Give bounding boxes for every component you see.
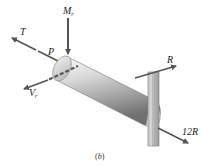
figure-caption: (b) (95, 153, 104, 161)
label-R: R (167, 55, 173, 65)
label-Mr: Mr (63, 6, 74, 17)
lever-plate (148, 72, 159, 146)
axial-force-arrow (12, 38, 62, 63)
shaft-cylinder (49, 53, 161, 128)
label-Vr: Vr (29, 88, 37, 99)
label-T: T (20, 27, 26, 37)
label-12R: 12R (182, 127, 198, 137)
free-body-diagram (0, 0, 204, 166)
label-P: P (48, 47, 54, 57)
